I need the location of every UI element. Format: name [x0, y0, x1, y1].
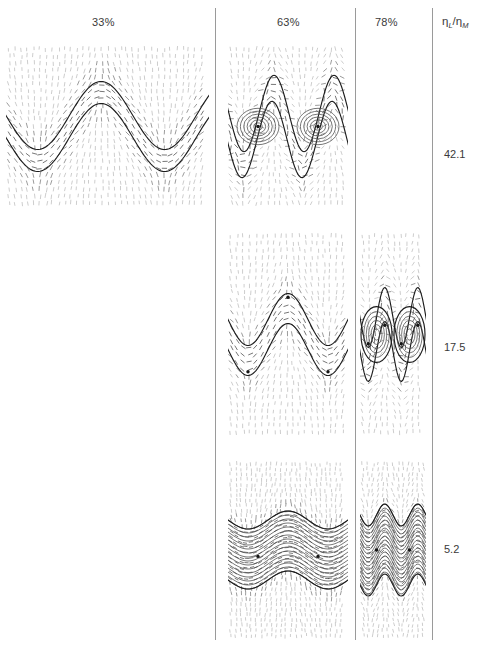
ratio-axis-label: ηL/ηM	[442, 15, 468, 30]
panel-78-5	[360, 460, 426, 640]
panel-63-42	[228, 45, 348, 208]
panel-63-17	[228, 232, 348, 437]
column-header-63: 63%	[277, 16, 300, 28]
panel-78-17	[360, 232, 426, 437]
panel-33-42	[6, 45, 209, 208]
subscript-L: L	[448, 21, 452, 30]
row-label-17: 17.5	[444, 341, 465, 353]
column-header-33: 33%	[92, 16, 115, 28]
row-label-42: 42.1	[444, 148, 465, 160]
subscript-M: M	[462, 21, 468, 30]
row-label-5: 5.2	[444, 543, 459, 555]
figure-canvas: 33% 63% 78% ηL/ηM 42.1 17.5 5.2	[0, 0, 484, 648]
column-header-78: 78%	[375, 16, 398, 28]
panel-63-5	[228, 460, 348, 640]
column-divider-1	[215, 8, 216, 640]
column-divider-3	[432, 8, 433, 640]
column-divider-2	[355, 8, 356, 640]
